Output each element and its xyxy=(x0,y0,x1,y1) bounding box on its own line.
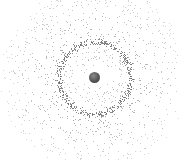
central-sphere xyxy=(89,72,100,83)
